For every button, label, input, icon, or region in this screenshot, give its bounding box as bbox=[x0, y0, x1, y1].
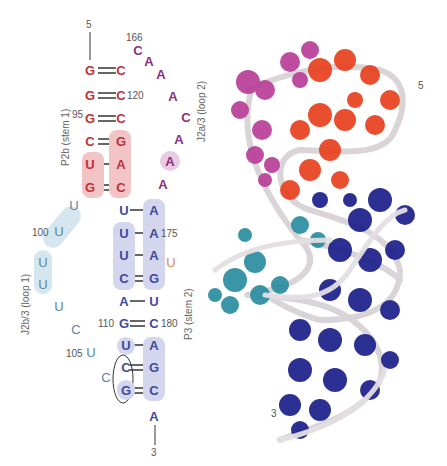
model-five-prime-label: 5 bbox=[418, 80, 424, 92]
model-three-prime-label: 3 bbox=[271, 408, 277, 420]
rna-3d-model bbox=[0, 0, 447, 466]
